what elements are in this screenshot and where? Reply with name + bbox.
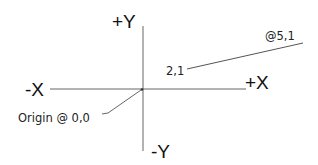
neg-y-label: -Y: [151, 141, 170, 162]
origin-leader-line: [102, 90, 141, 114]
pos-x-label: +X: [245, 72, 269, 93]
pos-y-label: +Y: [112, 11, 136, 32]
line-end-label: @5,1: [265, 29, 295, 43]
neg-x-label: -X: [25, 79, 44, 100]
diagram-canvas: +Y -Y +X -X 2,1 @5,1 Origin @ 0,0: [0, 0, 318, 165]
origin-label: Origin @ 0,0: [18, 111, 90, 125]
coordinate-diagram: +Y -Y +X -X 2,1 @5,1 Origin @ 0,0: [0, 0, 318, 165]
line-start-label: 2,1: [166, 64, 184, 78]
relative-coordinate-line: [187, 43, 303, 69]
